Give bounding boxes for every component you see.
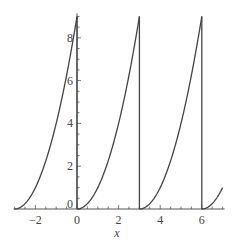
x-tick-label: 0 <box>74 213 80 227</box>
y-tick-label: 4 <box>67 116 73 130</box>
chart-canvas: −20246 02468 x <box>0 0 233 246</box>
y-tick-label: 0 <box>67 197 73 211</box>
y-tick-label: 2 <box>67 159 73 173</box>
x-tick-label: 4 <box>157 213 163 227</box>
y-axis: 02468 <box>67 13 81 211</box>
x-axis-label: x <box>113 226 120 240</box>
curve-segment <box>139 16 201 209</box>
x-axis: −20246 <box>14 205 225 227</box>
x-tick-label: 2 <box>116 213 122 227</box>
curve-segment <box>202 188 223 209</box>
function-curve <box>15 16 223 209</box>
x-tick-label: −2 <box>29 213 42 227</box>
curve-segment <box>15 16 77 209</box>
x-tick-label: 6 <box>199 213 205 227</box>
curve-segment <box>77 16 139 209</box>
y-tick-label: 6 <box>67 74 73 88</box>
